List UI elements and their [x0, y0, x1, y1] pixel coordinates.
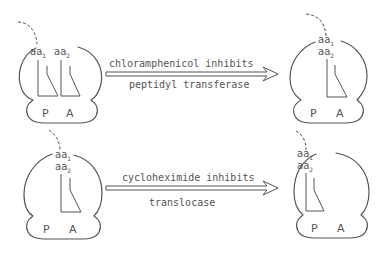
trna-label-1: aa	[318, 34, 330, 45]
svg-text:aa2: aa2	[318, 46, 334, 59]
arrow-label-top: chloramphenicol inhibits	[109, 58, 254, 69]
subscript-2: 2	[330, 52, 334, 59]
row2-reaction-arrow: cycloheximide inhibits translocase	[106, 172, 278, 208]
trna-label-2: aa	[318, 46, 330, 57]
a-site-label: A	[337, 222, 345, 235]
p-site-label: P	[311, 222, 318, 235]
arrow-label-top: cycloheximide inhibits	[122, 172, 254, 183]
a-site-label: A	[69, 223, 77, 236]
trna-label-1: aa	[297, 148, 309, 159]
trna-a-site	[61, 60, 80, 96]
open-arrow	[106, 181, 278, 195]
arrow-label-bottom: peptidyl transferase	[129, 79, 249, 90]
ribosome-outline	[19, 47, 101, 123]
svg-text:aa2: aa2	[55, 161, 71, 174]
row2-left-ribosome: aa1 aa2 P A	[24, 130, 102, 239]
trna-label-2: aa	[54, 46, 66, 57]
row1-left-ribosome: aa1 aa2 P A	[18, 22, 102, 123]
trna-label-1: aa	[55, 149, 67, 160]
subscript-2: 2	[67, 167, 71, 174]
nascent-chain	[306, 14, 326, 36]
nascent-chain	[49, 130, 60, 150]
svg-text:aa1: aa1	[30, 46, 46, 59]
trna-a-site	[327, 59, 347, 97]
subscript-2: 2	[66, 52, 70, 59]
nascent-chain	[18, 22, 37, 44]
p-site-label: P	[43, 223, 50, 236]
subscript-1: 1	[330, 40, 334, 47]
ribosome-inhibition-diagram: aa1 aa2 P A chloramphenicol inhibits pep…	[0, 0, 382, 255]
row1-reaction-arrow: chloramphenicol inhibits peptidyl transf…	[106, 58, 278, 90]
arrow-label-bottom: translocase	[149, 197, 215, 208]
p-site-label: P	[42, 107, 49, 120]
trna-p-site	[306, 173, 324, 211]
trna-label-2: aa	[55, 161, 67, 172]
a-site-label: A	[336, 107, 344, 120]
subscript-2: 2	[309, 166, 313, 173]
p-site-label: P	[310, 107, 317, 120]
trna-label-1: aa	[30, 46, 42, 57]
svg-text:aa2: aa2	[297, 160, 313, 173]
trna-a-site	[61, 174, 81, 212]
trna-label-2: aa	[297, 160, 309, 171]
svg-text:aa2: aa2	[54, 46, 70, 59]
subscript-1: 1	[42, 52, 46, 59]
row2-right-ribosome: aa1 aa2 P A	[294, 131, 369, 238]
subscript-1: 1	[67, 155, 71, 162]
subscript-1: 1	[309, 154, 313, 161]
a-site-label: A	[66, 107, 74, 120]
row1-right-ribosome: aa1 aa2 P A	[290, 14, 367, 123]
trna-p-site	[38, 60, 58, 96]
